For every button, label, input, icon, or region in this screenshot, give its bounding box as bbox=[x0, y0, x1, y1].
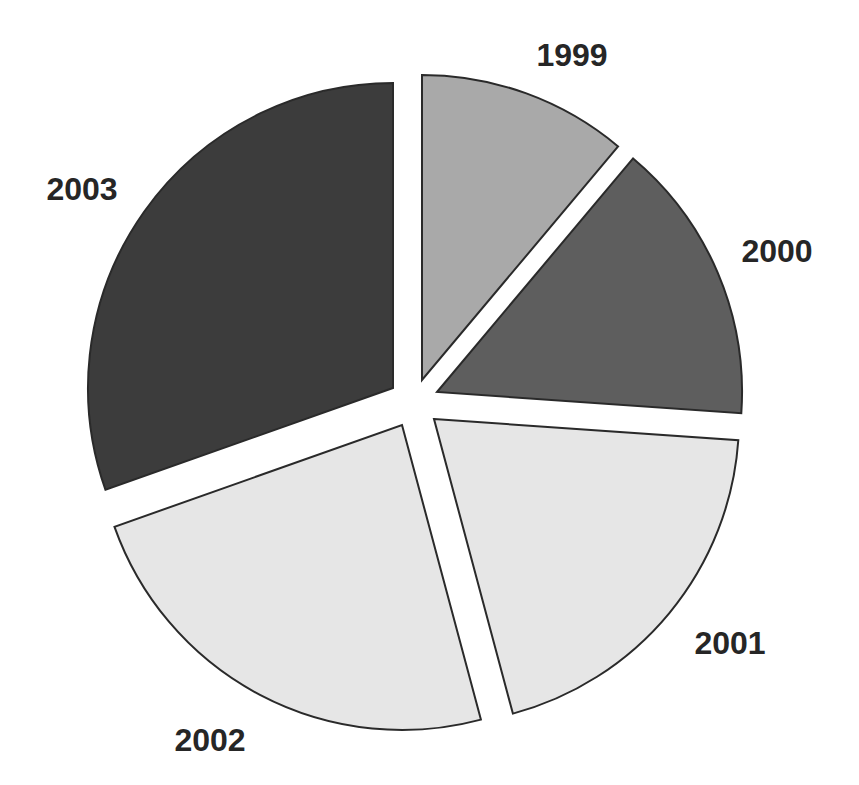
pie-slice-2002 bbox=[115, 425, 481, 730]
slice-label-2001: 2001 bbox=[694, 625, 765, 661]
pie-chart: 1999 2000 2001 2002 2003 bbox=[0, 0, 859, 785]
slice-label-2003: 2003 bbox=[46, 171, 117, 207]
pie-slice-2001 bbox=[434, 419, 738, 714]
pie-slices bbox=[88, 75, 742, 730]
slice-label-1999: 1999 bbox=[536, 37, 607, 73]
slice-label-2002: 2002 bbox=[174, 722, 245, 758]
slice-label-2000: 2000 bbox=[741, 233, 812, 269]
pie-slice-2003 bbox=[88, 83, 393, 490]
